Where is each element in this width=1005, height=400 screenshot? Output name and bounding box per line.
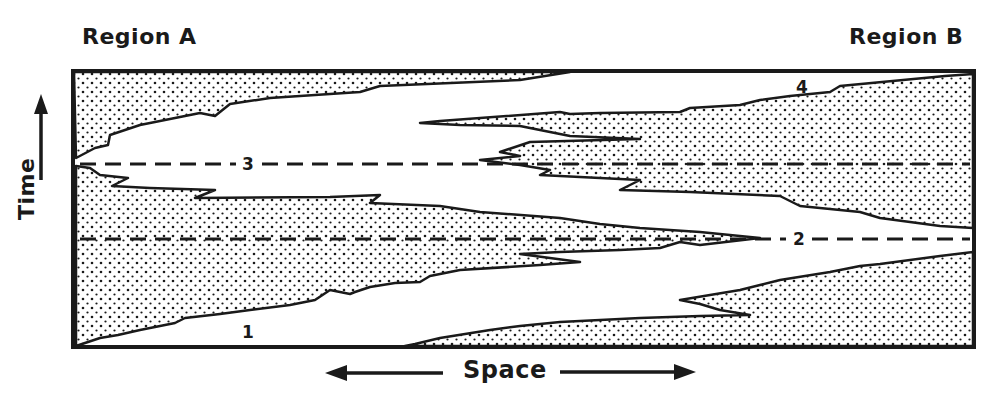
marker-3: 3 <box>242 154 254 174</box>
time-arrow-icon <box>34 94 48 180</box>
time-space-diagram: 3 2 1 4 <box>0 0 1005 400</box>
space-right-arrow-icon <box>560 364 696 380</box>
region-b-upper-stipple <box>420 74 973 228</box>
marker-4: 4 <box>796 77 808 97</box>
marker-1: 1 <box>242 322 254 342</box>
region-a-upper-stipple <box>74 72 570 158</box>
space-left-arrow-icon <box>325 365 443 381</box>
marker-2: 2 <box>793 229 805 249</box>
